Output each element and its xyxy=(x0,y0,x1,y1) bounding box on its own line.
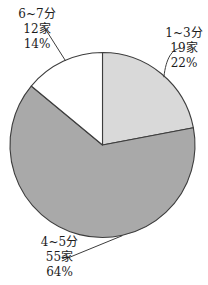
slice-label-6-7: 6~7分 12家 14% xyxy=(1,7,73,52)
pie-chart-figure: 6~7分 12家 14% 1~3分 19家 22% 4~5分 55家 64% xyxy=(0,0,208,285)
slice-range: 6~7分 xyxy=(1,7,73,22)
slice-percent: 22% xyxy=(149,56,208,71)
slice-count: 19家 xyxy=(149,41,208,56)
slice-range: 4~5分 xyxy=(24,235,95,250)
slice-range: 1~3分 xyxy=(149,26,208,41)
slice-label-1-3: 1~3分 19家 22% xyxy=(149,26,208,71)
slice-label-4-5: 4~5分 55家 64% xyxy=(24,235,95,280)
pie-slices xyxy=(10,53,195,238)
slice-percent: 64% xyxy=(24,265,95,280)
slice-count: 12家 xyxy=(1,22,73,37)
slice-count: 55家 xyxy=(24,250,95,265)
slice-percent: 14% xyxy=(1,37,73,52)
